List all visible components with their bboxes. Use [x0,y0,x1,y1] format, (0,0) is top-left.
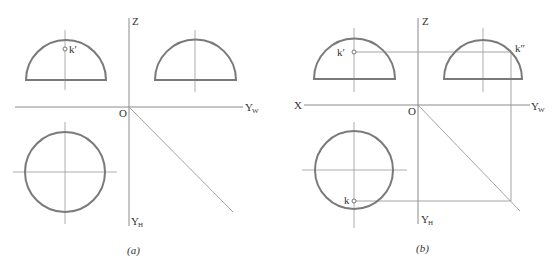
45-degree-line-b [418,105,520,211]
front-view-hemisphere-a [26,40,106,80]
front-view-hemisphere-b [314,39,395,79]
origin-label-a: O [119,107,127,119]
caption-a: (a) [127,244,140,257]
panel-a: Z O Y W Y H k′ (a) [13,15,259,257]
panel-b: Z X O Y W Y H k′ k″ k (b) [294,15,545,255]
k-double-prime-label-b: k″ [515,42,525,54]
point-k-prime-b [352,50,356,54]
x-label-b: X [294,99,302,111]
projection-diagram: Z O Y W Y H k′ (a) Z X O Y W Y H [0,0,560,264]
k-prime-label-a: k′ [69,43,77,55]
45-degree-line-a [129,107,233,212]
z-label-b: Z [422,15,429,27]
point-k-prime-a [63,47,67,51]
side-view-hemisphere-a [155,40,236,80]
origin-label-b: O [408,105,416,117]
yh-subscript-a: H [138,221,143,229]
caption-b: (b) [416,242,429,255]
k-prime-label-b: k′ [337,46,345,58]
z-label-a: Z [132,15,139,27]
yh-subscript-b: H [428,219,433,227]
yw-subscript-a: W [252,107,259,115]
k-label-b: k [344,194,350,206]
point-k-b [352,199,356,203]
yw-subscript-b: W [538,106,545,114]
